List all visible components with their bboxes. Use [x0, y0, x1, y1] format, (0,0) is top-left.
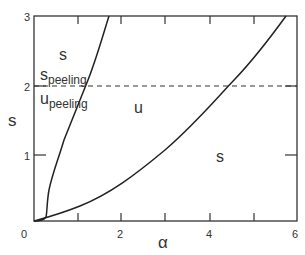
plot-frame [34, 16, 297, 221]
x-tick-label-6: 6 [292, 228, 298, 240]
x-ticks [78, 16, 254, 221]
region-label-u: u [134, 99, 143, 116]
y-axis-label: s [8, 111, 17, 130]
left-boundary-curve [34, 16, 109, 221]
phase-diagram: 3 2 1 0 2 4 6 s α s speeling upeeling u … [0, 0, 305, 255]
region-label-u-peeling: upeeling [40, 90, 88, 111]
region-label-s-right: s [216, 148, 224, 165]
x-tick-label-0: 0 [21, 228, 27, 240]
x-axis-label: α [158, 233, 168, 252]
region-label-s-peeling: speeling [40, 66, 87, 87]
y-tick-label-1: 1 [24, 150, 30, 162]
x-tick-label-4: 4 [206, 228, 212, 240]
x-tick-label-2: 2 [117, 228, 123, 240]
y-tick-label-2: 2 [24, 81, 30, 93]
region-label-s-top: s [59, 46, 67, 63]
y-tick-label-3: 3 [24, 11, 30, 23]
